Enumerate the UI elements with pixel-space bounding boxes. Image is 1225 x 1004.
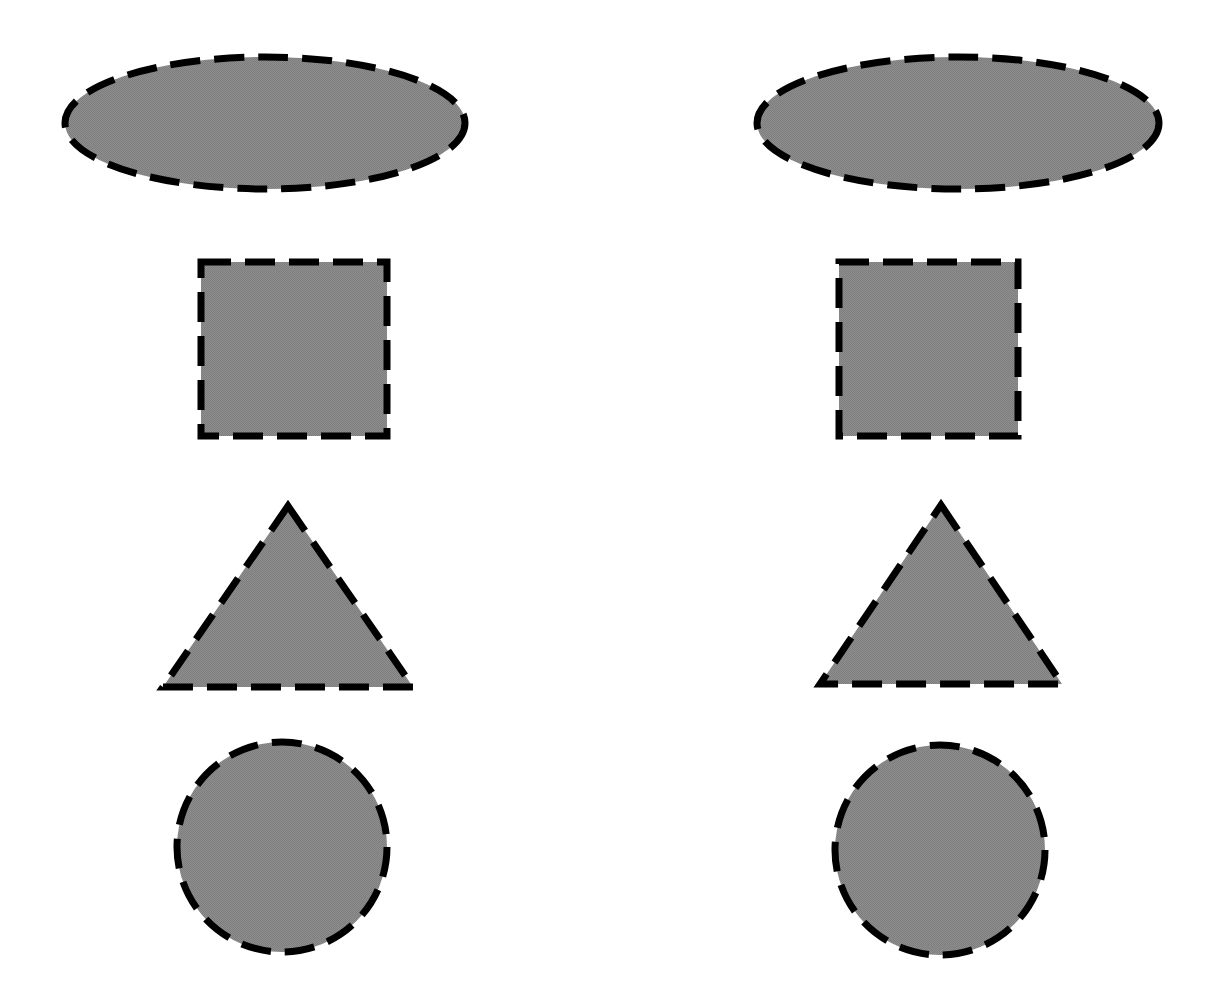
shape-grid-canvas: EllipseEllipseSquareSquareTriangleTriang… [0,0,1225,1004]
triangle-right: Triangle [820,505,1062,684]
circle-left: Circle [177,742,387,952]
shapes-group: EllipseEllipseSquareSquareTriangleTriang… [65,57,1159,955]
shape-layer: EllipseEllipseSquareSquareTriangleTriang… [0,0,1225,1004]
ellipse-left: Ellipse [65,57,465,189]
ellipse-right: Ellipse [757,57,1159,189]
triangle-left: Triangle [163,506,413,687]
square-left: Square [201,262,387,436]
circle-right: Circle [835,745,1045,955]
shapes-svg: EllipseEllipseSquareSquareTriangleTriang… [0,0,1225,1004]
square-right: Square [839,262,1018,436]
